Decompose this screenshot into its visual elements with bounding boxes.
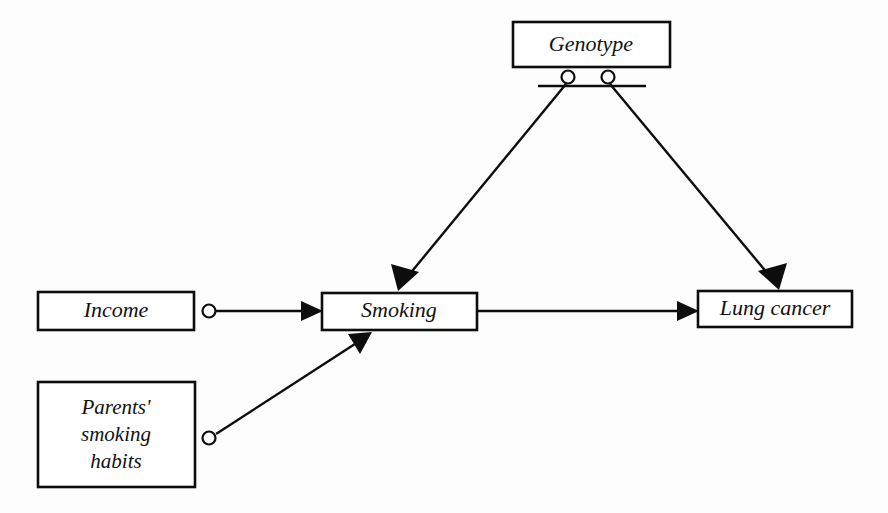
node-lung-cancer-label: Lung cancer xyxy=(719,295,831,320)
causal-diagram-svg: Genotype Income Parents' smoking habits … xyxy=(0,0,888,513)
arrowhead-income-smoking xyxy=(301,301,323,321)
edge-line-genotype-smoking xyxy=(404,84,566,281)
diagram-canvas: Genotype Income Parents' smoking habits … xyxy=(0,0,888,513)
node-income-label: Income xyxy=(83,297,149,322)
node-smoking-label: Smoking xyxy=(361,297,437,322)
node-parents-smoking-habits[interactable]: Parents' smoking habits xyxy=(38,382,195,487)
node-income[interactable]: Income xyxy=(38,292,194,330)
fork-circle-left xyxy=(562,71,575,84)
edge-parents-to-smoking xyxy=(203,332,373,445)
origin-circle-parents xyxy=(203,432,216,445)
node-parents-label-line-2: smoking xyxy=(81,422,151,446)
arrowhead-parents-smoking xyxy=(348,332,372,354)
arrowhead-smoking-lung-cancer xyxy=(677,301,699,321)
node-lung-cancer[interactable]: Lung cancer xyxy=(698,291,852,327)
edge-genotype-to-smoking xyxy=(391,84,566,291)
node-smoking[interactable]: Smoking xyxy=(322,293,477,330)
node-genotype-label: Genotype xyxy=(549,31,634,56)
edge-line-genotype-lung-cancer xyxy=(610,84,773,280)
origin-circle-income xyxy=(203,305,216,318)
edge-line-parents-smoking xyxy=(216,342,358,434)
edge-income-to-smoking xyxy=(203,301,324,321)
edge-smoking-to-lung-cancer xyxy=(478,301,699,321)
fork-circle-right xyxy=(602,71,615,84)
node-parents-label-line-3: habits xyxy=(90,449,141,473)
edge-genotype-to-lung-cancer xyxy=(610,84,787,290)
genotype-fork xyxy=(538,71,646,87)
node-genotype[interactable]: Genotype xyxy=(513,22,670,67)
node-parents-label-line-1: Parents' xyxy=(80,395,151,419)
